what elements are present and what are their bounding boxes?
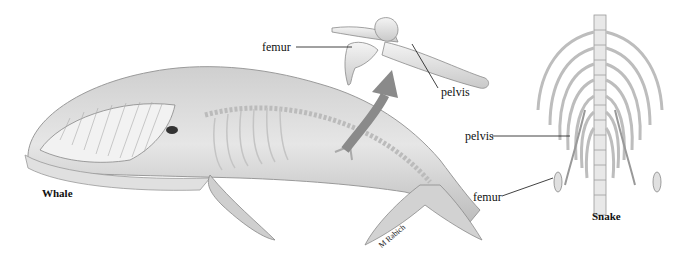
whale bbox=[25, 67, 482, 245]
snake-skeleton bbox=[492, 15, 662, 215]
label-snake-pelvis: pelvis bbox=[465, 130, 494, 142]
caption-snake: Snake bbox=[592, 211, 621, 222]
label-snake-femur: femur bbox=[473, 191, 502, 203]
label-whale-femur: femur bbox=[262, 41, 291, 53]
caption-whale: Whale bbox=[42, 188, 73, 199]
label-whale-pelvis: pelvis bbox=[441, 86, 470, 98]
